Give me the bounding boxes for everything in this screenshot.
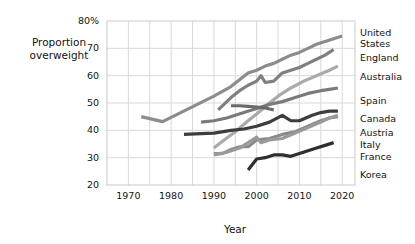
x-tick-label: 2010 bbox=[279, 190, 319, 201]
x-tick-label: 2020 bbox=[322, 190, 362, 201]
series-label-france: France bbox=[360, 152, 392, 163]
y-tick-label: 80% bbox=[65, 15, 99, 26]
y-tick-label: 50 bbox=[65, 97, 99, 108]
x-tick-label: 1970 bbox=[108, 190, 148, 201]
series-label-korea: Korea bbox=[360, 170, 387, 181]
x-tick-label: 2000 bbox=[237, 190, 277, 201]
y-tick-label: 20 bbox=[65, 179, 99, 190]
series-label-austria: Austria bbox=[360, 128, 394, 139]
series-label-australia: Australia bbox=[360, 72, 402, 83]
x-tick-label: 1990 bbox=[194, 190, 234, 201]
series-label-italy: Italy bbox=[360, 140, 381, 151]
series-label-spain: Spain bbox=[360, 96, 387, 107]
y-tick-label: 30 bbox=[65, 152, 99, 163]
series-label-england: England bbox=[360, 53, 399, 64]
x-tick-label: 1980 bbox=[151, 190, 191, 201]
x-axis-title: Year bbox=[190, 223, 280, 236]
y-tick-label: 40 bbox=[65, 124, 99, 135]
series-label-canada: Canada bbox=[360, 114, 396, 125]
series-label-united-states: United States bbox=[360, 28, 391, 49]
y-tick-label: 70 bbox=[65, 42, 99, 53]
y-tick-label: 60 bbox=[65, 70, 99, 81]
overweight-proportion-line-chart: Proportion overweight Year 2030405060708… bbox=[0, 0, 415, 244]
